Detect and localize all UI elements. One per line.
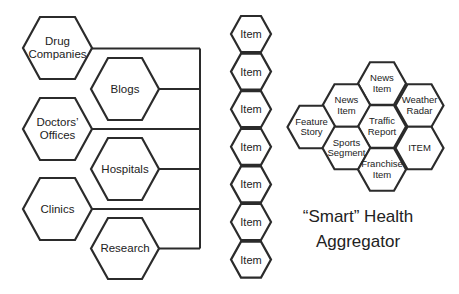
label-line: Feature bbox=[295, 116, 328, 127]
source-label-research: Research bbox=[92, 219, 158, 279]
item-label-7: Item bbox=[231, 242, 271, 278]
item-label-4: Item bbox=[231, 129, 271, 165]
label-line: Drug bbox=[45, 35, 70, 47]
item-label-2: Item bbox=[231, 54, 271, 90]
label-line: Weather bbox=[402, 94, 438, 105]
label-line: Research bbox=[100, 242, 149, 255]
item-label-5: Item bbox=[231, 166, 271, 202]
label-line: Doctors’ bbox=[36, 116, 78, 128]
source-label-drug-companies: DrugCompanies bbox=[25, 18, 91, 78]
comb-label-franchise-item: FranchiseItem bbox=[359, 149, 405, 191]
label-line: Franchise bbox=[361, 158, 403, 169]
aggregator-title: “Smart” Health Aggregator bbox=[296, 204, 420, 254]
title-line-2: Aggregator bbox=[296, 229, 420, 254]
label-line: Hospitals bbox=[101, 163, 148, 176]
item-label-6: Item bbox=[231, 204, 271, 240]
label-line: Blogs bbox=[111, 83, 140, 96]
source-label-doctors-offices: Doctors’Offices bbox=[25, 99, 91, 159]
label-line: Report bbox=[368, 126, 397, 137]
label-line: Item bbox=[373, 169, 391, 180]
label-line: Offices bbox=[40, 129, 76, 141]
label-line: Radar bbox=[407, 105, 433, 116]
label-line: Sports bbox=[333, 137, 360, 148]
title-line-1: “Smart” Health bbox=[296, 204, 420, 229]
label-line: Item bbox=[337, 105, 355, 116]
label-line: News bbox=[335, 94, 359, 105]
source-label-blogs: Blogs bbox=[92, 59, 158, 119]
label-line: Story bbox=[300, 126, 322, 137]
label-line: Clinics bbox=[41, 203, 75, 216]
label-line: ITEM bbox=[408, 143, 431, 153]
health-aggregator-diagram: DrugCompanies Blogs Doctors’Offices Hosp… bbox=[0, 0, 459, 294]
item-label-3: Item bbox=[231, 91, 271, 127]
source-label-clinics: Clinics bbox=[25, 179, 91, 239]
item-label-1: Item bbox=[231, 16, 271, 52]
label-line: Traffic bbox=[369, 115, 395, 126]
source-label-hospitals: Hospitals bbox=[92, 139, 158, 199]
label-line: Companies bbox=[28, 48, 86, 60]
label-line: Item bbox=[373, 83, 391, 94]
label-line: News bbox=[370, 72, 394, 83]
